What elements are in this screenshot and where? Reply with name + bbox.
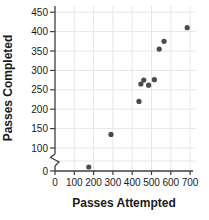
y-tick-label: 250	[31, 84, 48, 95]
data-point	[185, 25, 190, 30]
data-point	[86, 164, 91, 169]
x-tick-label: 300	[105, 177, 122, 188]
y-axis-title: Passes Completed	[1, 35, 15, 142]
data-point	[161, 39, 166, 44]
y-tick-label: 200	[31, 104, 48, 115]
x-tick-label: 0	[52, 177, 58, 188]
y-tick-label: 0	[42, 166, 48, 177]
y-tick-label: 100	[31, 143, 48, 154]
axis-break-icon	[51, 154, 60, 166]
y-tick-label: 300	[31, 65, 48, 76]
x-tick-label: 600	[162, 177, 179, 188]
y-tick-label: 350	[31, 46, 48, 57]
data-point	[152, 77, 157, 82]
axes	[55, 6, 194, 171]
scatter-plot: 0100200300400500600700010015020025030035…	[0, 0, 209, 220]
gridlines	[55, 6, 196, 171]
y-tick-label: 400	[31, 26, 48, 37]
data-point	[108, 132, 113, 137]
data-point	[141, 78, 146, 83]
y-tick-label: 150	[31, 123, 48, 134]
x-tick-label: 500	[143, 177, 160, 188]
tick-marks	[50, 12, 190, 175]
data-point	[146, 83, 151, 88]
data-point	[157, 46, 162, 51]
x-tick-label: 200	[85, 177, 102, 188]
x-tick-label: 100	[66, 177, 83, 188]
x-tick-label: 700	[182, 177, 199, 188]
chart-canvas: 0100200300400500600700010015020025030035…	[0, 0, 209, 220]
x-axis-title: Passes Attempted	[72, 196, 176, 210]
data-point	[136, 99, 141, 104]
x-tick-label: 400	[124, 177, 141, 188]
y-tick-label: 450	[31, 7, 48, 18]
